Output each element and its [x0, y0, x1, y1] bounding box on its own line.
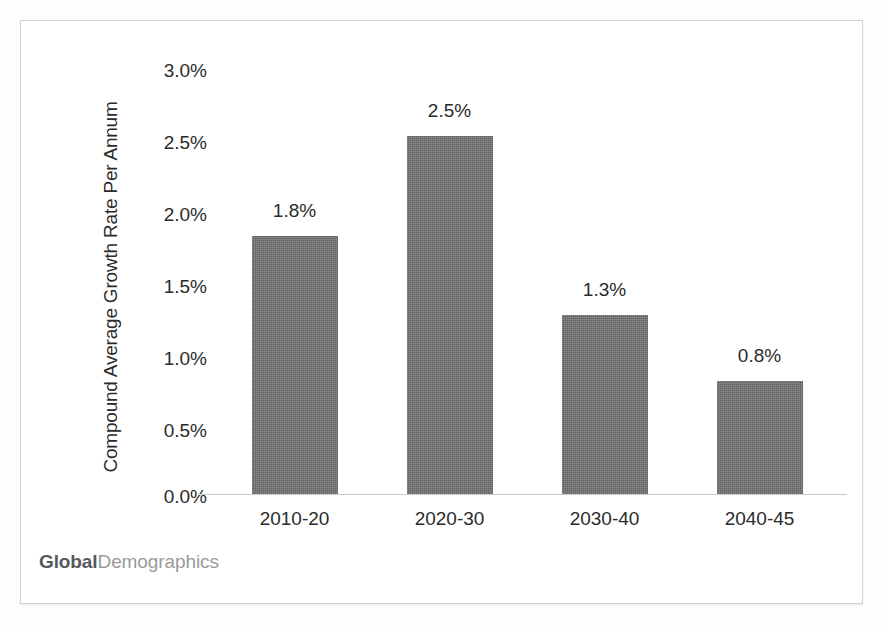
y-tick-label: 0.5% [129, 421, 207, 440]
bar-slot: 1.8% [217, 54, 372, 494]
chart-page: Compound Average Growth Rate Per Annum 3… [0, 0, 888, 630]
y-tick-label: 1.5% [129, 277, 207, 296]
table-row[interactable] [407, 136, 493, 494]
bar-value-label: 0.8% [682, 345, 837, 367]
x-tick-label: 2030-40 [527, 508, 682, 530]
x-axis-tick-labels: 2010-20 2020-30 2030-40 2040-45 [217, 508, 837, 542]
x-tick-label: 2020-30 [372, 508, 527, 530]
y-tick-label: 1.0% [129, 349, 207, 368]
bar-value-label: 1.3% [527, 279, 682, 301]
bar-value-label: 2.5% [372, 100, 527, 122]
brand-name-light: Demographics [98, 551, 219, 572]
table-row[interactable] [562, 315, 648, 494]
bar-value-label: 1.8% [217, 200, 372, 222]
x-tick-label: 2040-45 [682, 508, 837, 530]
y-tick-label: 2.5% [129, 133, 207, 152]
chart-frame: Compound Average Growth Rate Per Annum 3… [20, 20, 863, 604]
plot-area: Compound Average Growth Rate Per Annum 3… [21, 21, 864, 605]
y-tick-label: 3.0% [129, 61, 207, 80]
x-tick-label: 2010-20 [217, 508, 372, 530]
y-tick-label: 2.0% [129, 205, 207, 224]
y-axis-title: Compound Average Growth Rate Per Annum [100, 67, 122, 507]
bar-slot: 1.3% [527, 54, 682, 494]
table-row[interactable] [717, 381, 803, 494]
brand-watermark: GlobalDemographics [39, 551, 219, 573]
bar-slot: 2.5% [372, 54, 527, 494]
table-row[interactable] [252, 236, 338, 494]
y-tick-label: 0.0% [129, 487, 207, 506]
bar-slot: 0.8% [682, 54, 837, 494]
y-axis-tick-labels: 3.0% 2.5% 2.0% 1.5% 1.0% 0.5% 0.0% [129, 21, 207, 605]
brand-name-bold: Global [39, 551, 98, 572]
